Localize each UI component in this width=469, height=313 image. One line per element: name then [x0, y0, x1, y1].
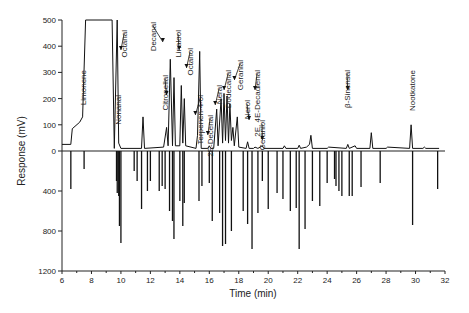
x-tick-label: 10	[116, 276, 125, 285]
y-tick-label: 0	[52, 147, 57, 156]
x-tick-label: 26	[352, 276, 361, 285]
x-tick-label: 14	[175, 276, 184, 285]
peak-label: Octanol	[186, 48, 195, 76]
peak-label: Nonanal	[114, 95, 123, 125]
x-tick-label: 24	[323, 276, 332, 285]
peak-label: Octanal	[120, 30, 129, 58]
y-tick-label: 100	[43, 121, 57, 130]
upper-trace-line	[62, 20, 439, 148]
lower-trace-sticks	[71, 151, 438, 249]
peak-label: Nootkatone	[408, 69, 417, 110]
peak-label: Dodecanal	[224, 70, 233, 108]
y-axis-label: Response (mV)	[16, 116, 27, 185]
chart-axes: 0100200300400500400800120068101214161820…	[38, 16, 450, 285]
peak-label: 2E-Decenal	[206, 115, 215, 157]
y-tick-label: 400	[43, 42, 57, 51]
y-tick-label: 800	[43, 227, 57, 236]
y-tick-label: 300	[43, 68, 57, 77]
x-tick-label: 22	[293, 276, 302, 285]
y-tick-label: 400	[43, 187, 57, 196]
y-tick-label: 500	[43, 16, 57, 25]
x-tick-label: 20	[264, 276, 273, 285]
x-axis-label: Time (min)	[229, 288, 276, 299]
x-tick-label: 12	[146, 276, 155, 285]
x-tick-label: 30	[411, 276, 420, 285]
x-tick-label: 18	[234, 276, 243, 285]
peak-label: Terpenen-4-ol	[196, 95, 205, 145]
y-tick-label: 1200	[38, 267, 56, 276]
x-tick-label: 8	[89, 276, 94, 285]
peak-label: Geranial	[236, 60, 245, 90]
x-tick-label: 28	[382, 276, 391, 285]
upper-trace-path	[62, 20, 439, 148]
chromatogram-chart: 0100200300400500400800120068101214161820…	[0, 0, 469, 313]
y-tick-label: 200	[43, 95, 57, 104]
peak-annotations: LimoneneOctanalNonanalDecanalCitronellal…	[79, 22, 417, 157]
x-tick-label: 6	[60, 276, 65, 285]
peak-label: Limonene	[79, 69, 88, 105]
x-tick-label: 32	[441, 276, 450, 285]
x-tick-label: 16	[205, 276, 214, 285]
